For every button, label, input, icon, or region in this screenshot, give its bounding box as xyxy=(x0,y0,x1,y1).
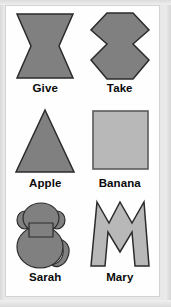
shape-item-take[interactable]: Take xyxy=(83,10,158,105)
shape-label-banana: Banana xyxy=(99,178,141,190)
frame-edge-right xyxy=(165,0,171,307)
square-icon xyxy=(87,105,153,177)
shape-label-give: Give xyxy=(33,83,58,95)
shape-grid: Give Take Apple Banana xyxy=(6,6,159,296)
monkey-silhouette-icon xyxy=(12,199,78,271)
shape-item-sarah[interactable]: Sarah xyxy=(8,199,83,294)
shape-label-apple: Apple xyxy=(29,178,61,190)
shape-item-give[interactable]: Give xyxy=(8,10,83,105)
shape-label-sarah: Sarah xyxy=(29,272,61,284)
bowtie-hourglass-icon xyxy=(12,10,78,82)
stimulus-panel: Give Take Apple Banana xyxy=(5,5,160,297)
stimulus-card: Give Take Apple Banana xyxy=(0,0,171,307)
shape-label-mary: Mary xyxy=(106,272,133,284)
double-arrow-hexagon-icon xyxy=(87,10,153,82)
shape-item-mary[interactable]: Mary xyxy=(83,199,158,294)
shape-item-banana[interactable]: Banana xyxy=(83,105,158,200)
shape-item-apple[interactable]: Apple xyxy=(8,105,83,200)
frame-edge-bottom xyxy=(0,300,171,307)
shape-label-take: Take xyxy=(107,83,133,95)
letter-m-icon xyxy=(87,199,153,271)
triangle-icon xyxy=(12,105,78,177)
